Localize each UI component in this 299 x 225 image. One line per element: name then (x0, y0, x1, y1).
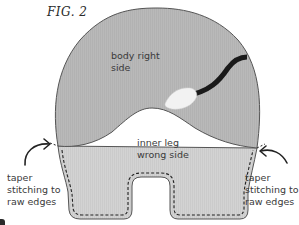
body-label-line2: side (111, 62, 160, 74)
taper-left-line3: raw edges (7, 196, 61, 208)
body-label: body right side (111, 50, 160, 74)
inner-leg-label-line2: wrong side (137, 149, 189, 161)
dash-left (50, 143, 58, 146)
figure-label: FIG. 2 (47, 5, 88, 19)
inner-leg-label: inner leg wrong side (137, 137, 189, 161)
taper-left-line1: taper (7, 172, 61, 184)
inner-leg-label-line1: inner leg (137, 137, 189, 149)
arrow-right (261, 150, 287, 163)
taper-left-line2: stitching to (7, 184, 61, 196)
corner-mark (0, 219, 5, 225)
taper-annotation-right: taper stitching to raw edges (245, 172, 299, 208)
taper-right-line1: taper (245, 172, 299, 184)
body-piece (55, 8, 259, 148)
taper-right-line2: stitching to (245, 184, 299, 196)
body-label-line1: body right (111, 50, 160, 62)
taper-right-line3: raw edges (245, 196, 299, 208)
taper-annotation-left: taper stitching to raw edges (7, 172, 61, 208)
